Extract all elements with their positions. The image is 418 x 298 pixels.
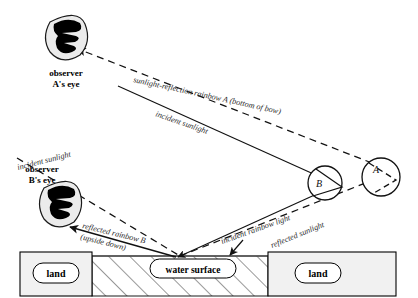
- ray-sunlight-reflection-rainbow-a: [78, 49, 372, 163]
- label-sunlight-reflection-rainbow-a: sunlight-reflection rainbow A (bottom of…: [133, 75, 283, 116]
- label-incident-sunlight-a-text: incident sunlight: [154, 109, 209, 136]
- raindrop-b-label: B: [316, 178, 322, 189]
- diagram-canvas: land land water surface: [0, 0, 418, 298]
- land-right-label: land: [309, 268, 328, 279]
- label-incident-sunlight-a: incident sunlight: [154, 109, 209, 136]
- observer-a-eye-group: observer A's eye: [46, 15, 88, 89]
- raindrop-a-label: A: [372, 164, 380, 175]
- ray-incident-rainbow-light: [178, 188, 330, 257]
- observer-a-label-line1: observer: [49, 68, 83, 78]
- label-sunlight-reflection-rainbow-a-text: sunlight-reflection rainbow A (bottom of…: [133, 75, 283, 116]
- observer-b-label-line2: B's eye: [29, 175, 56, 185]
- land-left-label: land: [47, 268, 66, 279]
- ground-group: land land water surface: [20, 252, 396, 296]
- raindrop-a-circle: [362, 158, 400, 196]
- observer-b-eye-group: observer B's eye: [25, 164, 81, 227]
- raindrop-b-group: B: [308, 166, 342, 200]
- rainbow-reflection-diagram: land land water surface: [0, 0, 418, 298]
- water-surface-label: water surface: [166, 265, 221, 275]
- observer-a-label-line2: A's eye: [52, 79, 79, 89]
- raindrop-a-group: A: [362, 158, 400, 196]
